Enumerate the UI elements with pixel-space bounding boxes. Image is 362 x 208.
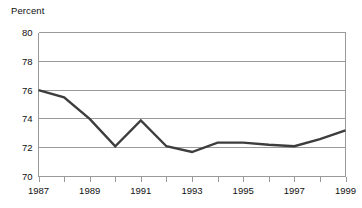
y-tick-label-76: 76 <box>22 85 33 96</box>
x-axis-ticks-group <box>40 177 347 182</box>
x-tick-label-1997: 1997 <box>284 185 305 196</box>
y-tick-label-78: 78 <box>22 56 33 67</box>
data-series-line-group <box>39 90 346 152</box>
x-tick-label-1995: 1995 <box>233 185 254 196</box>
x-tick-label-1991: 1991 <box>130 185 151 196</box>
y-tick-label-74: 74 <box>22 113 33 124</box>
data-series-line <box>39 90 346 152</box>
line-chart-figure: Percent 807876747270 1987198919911993199… <box>0 0 362 208</box>
y-tick-label-80: 80 <box>22 27 33 38</box>
x-tick-label-1987: 1987 <box>28 185 49 196</box>
x-tick-label-1989: 1989 <box>79 185 100 196</box>
gridlines-group <box>39 33 346 177</box>
x-tick-label-1993: 1993 <box>181 185 202 196</box>
chart-plot-area: 807876747270 198719891991199319951997199… <box>0 0 362 208</box>
y-axis-tick-labels-group: 807876747270 <box>22 27 33 182</box>
y-tick-label-72: 72 <box>22 142 33 153</box>
y-tick-label-70: 70 <box>22 171 33 182</box>
x-axis-tick-labels-group: 1987198919911993199519971999 <box>28 185 356 196</box>
x-tick-label-1999: 1999 <box>335 185 356 196</box>
